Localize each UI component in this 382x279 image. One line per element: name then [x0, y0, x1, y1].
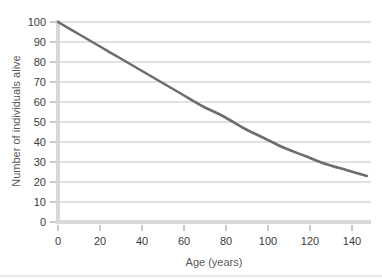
survivorship-curve-chart: 100 90 80 70 60 50 40 30 20 10 0 0 20: [0, 0, 382, 279]
y-axis-label: Number of individuals alive: [10, 55, 22, 186]
y-tick-label-100: 100: [28, 16, 46, 28]
y-tick-label-70: 70: [34, 76, 46, 88]
x-tick-marks: [58, 225, 352, 231]
y-tick-labels: 100 90 80 70 60 50 40 30 20 10 0: [28, 16, 46, 228]
x-tick-label-40: 40: [136, 235, 148, 247]
x-tick-label-140: 140: [343, 235, 361, 247]
y-tick-label-80: 80: [34, 56, 46, 68]
survivorship-curve-line: [58, 22, 367, 176]
x-tick-labels: 0 20 40 60 80 100 120 140: [55, 235, 361, 247]
x-tick-label-100: 100: [259, 235, 277, 247]
y-tick-label-50: 50: [34, 116, 46, 128]
x-tick-label-80: 80: [220, 235, 232, 247]
y-tick-label-30: 30: [34, 156, 46, 168]
x-tick-label-0: 0: [55, 235, 61, 247]
x-axis-label: Age (years): [186, 256, 243, 268]
x-tick-label-20: 20: [94, 235, 106, 247]
y-tick-label-60: 60: [34, 96, 46, 108]
chart-figure: 100 90 80 70 60 50 40 30 20 10 0 0 20: [0, 0, 382, 279]
y-tick-label-40: 40: [34, 136, 46, 148]
y-tick-label-20: 20: [34, 176, 46, 188]
y-tick-label-0: 0: [40, 216, 46, 228]
y-tick-label-90: 90: [34, 36, 46, 48]
x-tick-label-60: 60: [178, 235, 190, 247]
y-tick-label-10: 10: [34, 196, 46, 208]
x-tick-label-120: 120: [301, 235, 319, 247]
y-tick-marks: [50, 22, 56, 222]
